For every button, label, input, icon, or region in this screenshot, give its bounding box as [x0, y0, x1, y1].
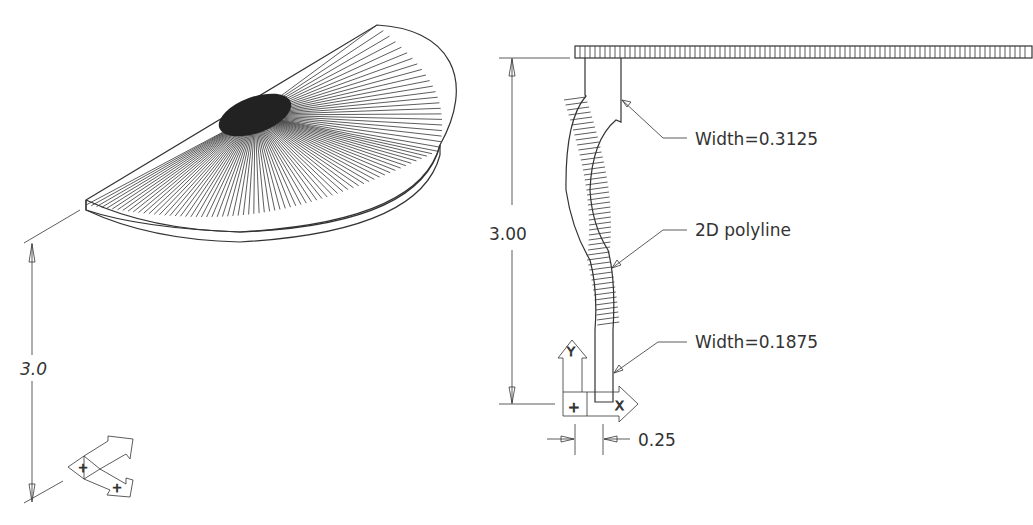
svg-text:Width=0.1875: Width=0.1875: [695, 332, 818, 352]
revolved-surface: [86, 25, 456, 242]
annotation-polyline: 2D polyline: [612, 220, 791, 268]
left-dimension-label: 3.0: [20, 359, 47, 379]
left-height-dimension: 3.0: [18, 210, 80, 503]
svg-text:Width=0.3125: Width=0.3125: [695, 129, 818, 149]
right-height-dimension: 3.00: [489, 58, 570, 404]
height-dimension-label: 3.00: [489, 224, 527, 244]
width-dimension-label: 0.25: [638, 430, 676, 450]
svg-text:2D polyline: 2D polyline: [695, 220, 791, 240]
base-plate: [575, 46, 1032, 58]
ucs-icon-left: + +: [68, 436, 133, 497]
svg-text:+: +: [78, 461, 88, 475]
svg-text:+: +: [568, 399, 580, 415]
ucs-icon-right: Y + X: [558, 340, 638, 422]
svg-text:X: X: [615, 398, 624, 413]
svg-text:Y: Y: [566, 344, 575, 359]
cad-drawing: 3.0 + + 3.00 0.25 Width: [0, 0, 1033, 525]
annotation-bottom-width: Width=0.1875: [614, 332, 818, 373]
svg-text:+: +: [112, 481, 122, 495]
annotation-top-width: Width=0.3125: [622, 100, 818, 149]
width-dimension: 0.25: [547, 424, 676, 455]
